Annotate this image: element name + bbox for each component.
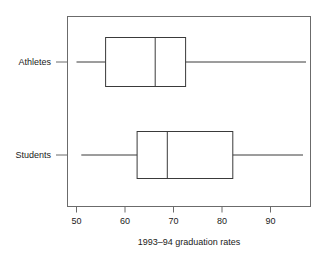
x-tick-label-80: 80 [217,216,227,226]
x-axis-title: 1993–94 graduation rates [138,237,241,247]
boxplot-athletes [77,38,307,87]
x-tick-label-60: 60 [120,216,130,226]
x-tick-label-90: 90 [265,216,275,226]
category-label-athletes: Athletes [18,57,51,67]
x-axis-ticks [77,207,271,213]
chart-svg: 50 60 70 80 90 1993–94 graduation rates … [0,0,336,255]
boxplot-chart: 50 60 70 80 90 1993–94 graduation rates … [0,0,336,255]
box-students [137,132,233,179]
box-athletes [106,38,186,87]
category-label-students: Students [15,150,51,160]
boxplot-students [81,132,303,179]
x-tick-label-70: 70 [168,216,178,226]
x-tick-label-50: 50 [71,216,81,226]
